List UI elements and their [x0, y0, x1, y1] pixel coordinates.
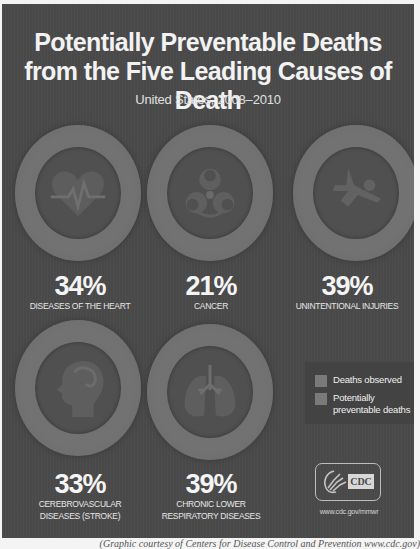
- legend: Deaths observed Potentially preventable …: [305, 362, 414, 424]
- title-line-1: Potentially Preventable Deaths: [2, 28, 414, 57]
- stat-respiratory: 39% CHRONIC LOWER RESPIRATORY DISEASES: [141, 470, 281, 522]
- stat-cancer: 21% CANCER: [141, 272, 281, 312]
- stroke-ring: [15, 320, 141, 456]
- hhs-eagle-icon: [320, 468, 348, 496]
- cdc-badge: CDC: [348, 474, 374, 489]
- cause-label: UNINTENTIONAL INJURIES: [277, 300, 414, 312]
- biohazard-icon: [179, 162, 241, 224]
- heart-pulse-icon: [47, 162, 109, 224]
- falling-person-icon: [325, 162, 387, 224]
- subtitle: United States, 2008–2010: [2, 92, 414, 107]
- cause-label: DISEASES OF THE HEART: [10, 300, 150, 312]
- stat-stroke: 33% CEREBROVASCULAR DISEASES (STROKE): [10, 470, 150, 522]
- head-profile-icon: [47, 357, 109, 419]
- percent-value: 39%: [277, 272, 414, 300]
- cause-label-line-1: CHRONIC LOWER: [141, 498, 281, 510]
- heart-disease-ring: [15, 125, 141, 261]
- respiratory-ring: [147, 324, 273, 460]
- legend-swatch: [315, 375, 327, 387]
- cdc-logo: CDC: [315, 463, 381, 501]
- cause-label: CANCER: [141, 300, 281, 312]
- cause-label-line-2: RESPIRATORY DISEASES: [141, 510, 281, 522]
- legend-swatch: [315, 393, 327, 405]
- cause-label-line-1: CEREBROVASCULAR: [10, 498, 150, 510]
- cause-label-line-2: DISEASES (STROKE): [10, 510, 150, 522]
- stat-unintentional-injuries: 39% UNINTENTIONAL INJURIES: [277, 272, 414, 312]
- percent-value: 33%: [10, 470, 150, 498]
- legend-item-preventable: Potentially preventable deaths: [315, 392, 410, 416]
- legend-item-deaths-observed: Deaths observed: [315, 374, 402, 387]
- cancer-ring: [147, 125, 273, 261]
- injuries-ring: [293, 125, 414, 261]
- percent-value: 21%: [141, 272, 281, 300]
- infographic-panel: Potentially Preventable Deaths from the …: [2, 4, 414, 538]
- stat-heart-disease: 34% DISEASES OF THE HEART: [10, 272, 150, 312]
- legend-label: Potentially preventable deaths: [333, 392, 410, 416]
- image-credit: (Graphic courtesy of Centers for Disease…: [80, 538, 420, 549]
- lungs-icon: [179, 361, 241, 423]
- legend-label: Deaths observed: [333, 374, 402, 386]
- percent-value: 34%: [10, 272, 150, 300]
- percent-value: 39%: [141, 470, 281, 498]
- cdc-url: www.cdc.gov/mmwr: [307, 508, 391, 515]
